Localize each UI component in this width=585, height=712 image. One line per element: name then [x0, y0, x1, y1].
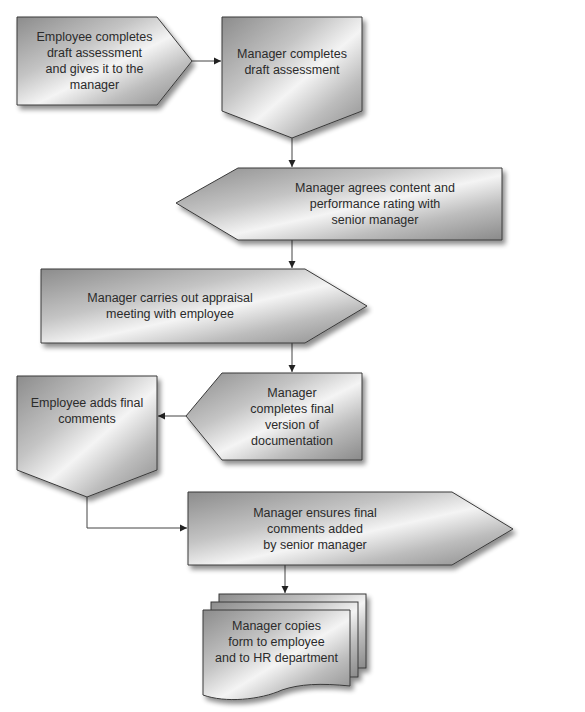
node-manager-agrees-rating: Manager agrees content and performance r… — [255, 168, 495, 240]
node-label: Manager ensures final comments added by … — [253, 505, 377, 553]
node-employee-completes-draft: Employee completes draft assessment and … — [17, 17, 172, 105]
node-label: Manager copies form to employee and to H… — [215, 618, 338, 666]
node-manager-final-documentation: Manager completes final version of docum… — [222, 373, 362, 460]
node-label: Manager carries out appraisal meeting wi… — [87, 290, 252, 322]
node-manager-copies-form: Manager copies form to employee and to H… — [203, 612, 350, 672]
node-manager-completes-draft: Manager completes draft assessment — [222, 17, 362, 107]
node-label: Manager completes draft assessment — [237, 46, 347, 78]
node-employee-final-comments: Employee adds final comments — [17, 376, 157, 446]
node-label: Employee completes draft assessment and … — [36, 29, 152, 93]
node-label: Employee adds final comments — [31, 395, 144, 427]
node-manager-appraisal-meeting: Manager carries out appraisal meeting wi… — [60, 269, 280, 343]
node-label: Manager agrees content and performance r… — [295, 180, 455, 228]
node-senior-manager-comments: Manager ensures final comments added by … — [200, 492, 430, 565]
edge-n6-n7 — [87, 497, 187, 528]
node-label: Manager completes final version of docum… — [250, 385, 333, 449]
